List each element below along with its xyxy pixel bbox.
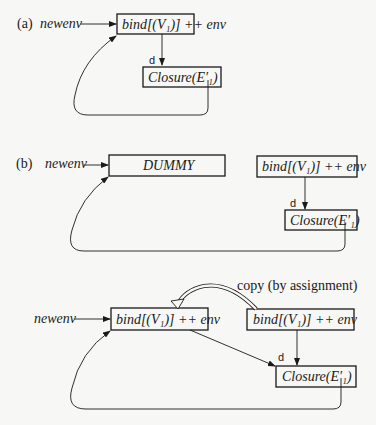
panel-a-label: (a) (17, 16, 33, 32)
edge-label-d: d (149, 54, 155, 66)
edge-label-d: d (278, 351, 284, 363)
environment-diagram: (a) newenv bind[(V₁)] ++ env d Closure(E… (0, 0, 376, 425)
panel-b: (b) newenv DUMMY bind[(V₁)] ++ env d Clo… (16, 155, 367, 251)
closure-box-text: Closure(E′₁) (148, 70, 218, 86)
edge-label-d: d (290, 197, 296, 209)
panel-c: copy (by assignment) newenv bind[(V₁)] +… (34, 278, 358, 409)
closure-box-text: Closure(E′₁) (282, 369, 352, 385)
panel-c-newenv-label: newenv (34, 311, 77, 326)
dummy-box-text: DUMMY (142, 158, 197, 173)
panel-a: (a) newenv bind[(V₁)] ++ env d Closure(E… (17, 14, 227, 115)
target-bind-box-text: bind[(V₁)] ++ env (116, 312, 221, 328)
copy-label: copy (by assignment) (237, 278, 358, 294)
target-to-closure-arrow (190, 330, 275, 366)
closure-box-text: Closure(E′₁) (290, 213, 360, 229)
bind-box-text: bind[(V₁)] ++ env (262, 159, 367, 175)
bind-box-text: bind[(V₁)] ++ env (122, 17, 227, 33)
panel-b-label: (b) (16, 156, 33, 172)
bind-box-text: bind[(V₁)] ++ env (253, 312, 358, 328)
panel-b-newenv-label: newenv (45, 156, 88, 171)
panel-a-newenv-label: newenv (40, 16, 83, 31)
